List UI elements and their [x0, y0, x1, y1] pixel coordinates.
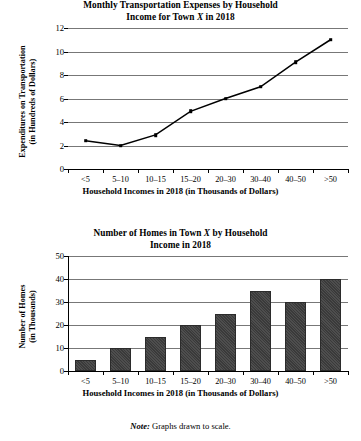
line-chart: Monthly Transportation Expenses by House…: [0, 0, 361, 203]
bar: [180, 325, 202, 371]
bar: [215, 314, 237, 372]
y-axis-tick-mark: [64, 122, 68, 123]
bar-chart-title-line1-post: by Household: [210, 228, 267, 238]
x-axis-tick-label: 15–20: [180, 377, 201, 386]
x-axis-tick-mark: [243, 371, 244, 375]
x-axis-line: [64, 371, 348, 372]
bar-plot-area: Number of Homes (in Thousands) Household…: [0, 251, 361, 405]
line-chart-x-axis-label: Household Incomes in 2018 (in Thousands …: [0, 186, 361, 196]
bar-chart-title-line1-pre: Number of Homes in Town: [93, 228, 203, 238]
y-axis-tick-mark: [64, 52, 68, 53]
x-axis-tick-label: 20–30: [215, 175, 236, 184]
line-chart-title-line2-post: in 2018: [203, 12, 234, 22]
line-chart-y-axis-label: Expenditures on Transportation (in Hundr…: [17, 16, 36, 187]
y-axis-tick-label: 50: [55, 252, 64, 261]
x-axis-tick-label: <5: [81, 175, 90, 184]
gridline: [68, 256, 348, 257]
data-point-marker: [224, 97, 228, 101]
x-axis-tick-mark: [208, 371, 209, 375]
y-axis-tick-label: 20: [55, 321, 64, 330]
y-axis-tick-mark: [64, 75, 68, 76]
bar-chart: Number of Homes in Town X by Household I…: [0, 228, 361, 405]
y-axis-tick-mark: [64, 99, 68, 100]
x-axis-line: [64, 169, 348, 170]
x-axis-tick-mark: [103, 371, 104, 375]
y-axis-tick-mark: [64, 28, 68, 29]
x-axis-tick-label: 10–15: [145, 175, 166, 184]
data-point-marker: [259, 85, 263, 89]
figure-note-prefix: Note:: [130, 421, 150, 431]
y-axis-line: [68, 256, 69, 372]
line-chart-title-line2-pre: Income for Town: [126, 12, 197, 22]
x-axis-tick-mark: [208, 169, 209, 173]
x-axis-tick-mark: [313, 169, 314, 173]
y-axis-tick-label: 10: [55, 47, 64, 56]
x-axis-tick-label: 5–10: [112, 377, 129, 386]
bar: [145, 337, 167, 372]
line-chart-title: Monthly Transportation Expenses by House…: [31, 0, 331, 23]
x-axis-tick-mark: [348, 371, 349, 375]
x-axis-tick-label: 20–30: [215, 377, 236, 386]
bar-ylabel-line2: (in Thousands): [27, 244, 37, 389]
bar-chart-y-axis-label: Number of Homes (in Thousands): [17, 244, 36, 389]
line-ylabel-line2: (in Hundreds of Dollars): [27, 16, 37, 187]
x-axis-tick-label: >50: [324, 175, 337, 184]
x-axis-tick-mark: [68, 169, 69, 173]
x-axis-tick-mark: [243, 169, 244, 173]
x-axis-tick-mark: [313, 371, 314, 375]
x-axis-tick-label: 10–15: [145, 377, 166, 386]
bar-chart-title-line2: Income in 2018: [150, 240, 211, 250]
bar-chart-title: Number of Homes in Town X by Household I…: [31, 228, 331, 251]
data-point-marker: [84, 139, 88, 143]
y-axis-tick-mark: [64, 146, 68, 147]
x-axis-tick-mark: [278, 371, 279, 375]
bar: [75, 360, 97, 372]
bar: [110, 348, 132, 371]
x-axis-tick-label: 15–20: [180, 175, 201, 184]
figure-note: Note: Graphs drawn to scale.: [0, 421, 361, 431]
x-axis-tick-label: 40–50: [285, 377, 306, 386]
x-axis-tick-mark: [173, 371, 174, 375]
x-axis-tick-label: 30–40: [250, 175, 271, 184]
x-axis-tick-mark: [138, 371, 139, 375]
data-point-marker: [329, 38, 333, 42]
x-axis-tick-mark: [173, 169, 174, 173]
x-axis-tick-mark: [278, 169, 279, 173]
figure-note-text: Graphs drawn to scale.: [150, 421, 231, 431]
x-axis-tick-mark: [103, 169, 104, 173]
y-axis-tick-label: 12: [55, 24, 64, 33]
x-axis-tick-label: 5–10: [112, 175, 129, 184]
data-point-marker: [119, 144, 123, 148]
line-series: [68, 28, 348, 169]
y-axis-tick-label: 40: [55, 275, 64, 284]
data-point-marker: [189, 110, 193, 114]
bar: [250, 291, 272, 372]
x-axis-tick-label: 40–50: [285, 175, 306, 184]
gridline: [68, 279, 348, 280]
x-axis-tick-label: <5: [81, 377, 90, 386]
data-point-marker: [154, 133, 158, 137]
figure-page: Monthly Transportation Expenses by House…: [0, 0, 361, 441]
line-chart-title-line1: Monthly Transportation Expenses by House…: [83, 0, 278, 10]
x-axis-tick-mark: [68, 371, 69, 375]
y-axis-tick-label: 10: [55, 344, 64, 353]
x-axis-tick-label: 30–40: [250, 377, 271, 386]
bar-chart-x-axis-label: Household Incomes in 2018 (in Thousands …: [0, 388, 361, 398]
line-ylabel-line1: Expenditures on Transportation: [17, 45, 26, 157]
line-plot-area: Expenditures on Transportation (in Hundr…: [0, 23, 361, 203]
x-axis-tick-mark: [138, 169, 139, 173]
data-point-marker: [294, 60, 298, 64]
bar: [285, 302, 307, 371]
bar-ylabel-line1: Number of Homes: [17, 284, 26, 348]
x-axis-tick-label: >50: [324, 377, 337, 386]
y-axis-tick-label: 30: [55, 298, 64, 307]
bar: [320, 279, 342, 371]
x-axis-tick-mark: [348, 169, 349, 173]
